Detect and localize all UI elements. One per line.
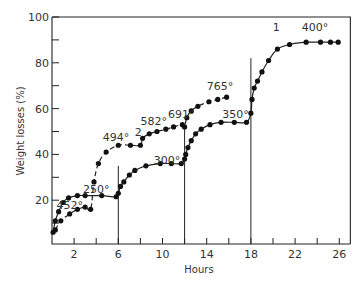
x-tick-label: 6	[115, 248, 122, 261]
x-tick-label: 22	[288, 248, 302, 261]
data-point	[147, 131, 152, 136]
series-1	[51, 40, 341, 235]
annotation-label: 1	[273, 21, 280, 34]
x-tick-label: 18	[244, 248, 258, 261]
data-point	[183, 152, 188, 157]
x-axis-title: Hours	[184, 264, 213, 275]
data-point	[75, 193, 80, 198]
data-point	[96, 161, 101, 166]
data-point	[171, 124, 176, 129]
annotation-label: 400°	[302, 21, 329, 34]
data-point	[88, 207, 93, 212]
data-point	[185, 145, 190, 150]
data-point	[249, 97, 254, 102]
x-tick-label: 2	[71, 248, 78, 261]
annotation-label: 582°	[140, 115, 167, 128]
x-tick-label: 26	[332, 248, 346, 261]
annotation-label: 452°	[56, 199, 83, 212]
annotation-label: 300°	[154, 154, 181, 167]
data-point	[195, 104, 200, 109]
data-point	[53, 227, 58, 232]
data-point	[127, 172, 132, 177]
y-axis: 20406080100	[28, 11, 59, 223]
data-point	[58, 218, 63, 223]
annotation-label: 765°	[207, 80, 234, 93]
x-axis: 261014182226	[71, 238, 347, 261]
data-point	[121, 179, 126, 184]
annotation-label: 250°	[83, 183, 110, 196]
data-point	[143, 163, 148, 168]
annotations: 400°1765°691°582°2494°350°300°250°452°	[56, 21, 328, 213]
data-point	[215, 97, 220, 102]
data-point	[182, 156, 187, 161]
data-point	[116, 191, 121, 196]
data-point	[275, 46, 280, 51]
annotation-label: 691°	[168, 108, 195, 121]
data-point	[189, 138, 194, 143]
data-point	[138, 143, 143, 148]
y-axis-title: Weight losses (%)	[15, 86, 26, 175]
x-tick-label: 10	[156, 248, 170, 261]
data-point	[255, 79, 260, 84]
data-point	[182, 124, 187, 129]
data-point	[248, 111, 253, 116]
data-point	[207, 122, 212, 127]
data-point	[287, 42, 292, 47]
series-line	[53, 42, 338, 232]
data-point	[132, 168, 137, 173]
weight-loss-chart: 261014182226 20406080100 400°1765°691°58…	[0, 0, 363, 283]
y-tick-label: 20	[35, 194, 49, 207]
data-point	[224, 95, 229, 100]
data-point	[252, 85, 257, 90]
data-point	[118, 184, 123, 189]
data-point	[154, 129, 159, 134]
annotation-label: 494°	[103, 131, 130, 144]
y-tick-label: 80	[35, 57, 49, 70]
data-point	[53, 218, 58, 223]
data-series	[51, 40, 341, 235]
data-point	[193, 131, 198, 136]
annotation-label: 2	[135, 126, 142, 139]
y-tick-label: 40	[35, 148, 49, 161]
data-point	[328, 40, 333, 45]
data-point	[304, 40, 309, 45]
data-point	[83, 204, 88, 209]
data-point	[199, 127, 204, 132]
data-point	[206, 99, 211, 104]
data-point	[318, 40, 323, 45]
y-tick-label: 60	[35, 103, 49, 116]
data-point	[104, 150, 109, 155]
x-tick-label: 14	[200, 248, 214, 261]
data-point	[259, 69, 264, 74]
y-tick-label: 100	[28, 11, 49, 24]
data-point	[266, 58, 271, 63]
annotation-label: 350°	[222, 108, 249, 121]
data-point	[336, 40, 341, 45]
